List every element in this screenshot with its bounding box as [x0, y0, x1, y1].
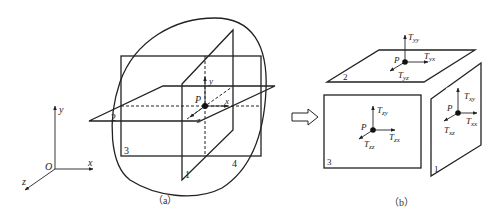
plane-label-2: 2: [111, 112, 116, 123]
point-p-right-label: P: [446, 103, 453, 113]
point-p-label: P: [194, 94, 201, 105]
z-axis: [25, 169, 55, 190]
local-z-label: z: [196, 115, 201, 125]
plane-label-3: 3: [124, 145, 129, 156]
face-top-label: 2: [343, 72, 348, 82]
t-yx-label: Tyx: [424, 51, 436, 63]
panel-a: O y x z P y x z 1 2 3 4 （a）: [21, 18, 275, 206]
point-p-front: [370, 127, 376, 133]
point-p: [202, 103, 208, 109]
global-axes: O y x z: [21, 104, 93, 190]
t-yz-label: Tyz: [398, 70, 409, 82]
point-p-front-label: P: [360, 122, 367, 132]
face-right-label: 1: [434, 164, 439, 174]
plane-label-1: 1: [185, 169, 190, 180]
point-p-top: [402, 59, 408, 65]
origin-label: O: [45, 161, 52, 172]
z-axis-label: z: [21, 176, 26, 187]
y-axis-label: y: [58, 104, 64, 115]
caption-a: （a）: [153, 195, 177, 206]
local-x-label: x: [224, 96, 229, 106]
panel-b: 2 P Tyy Tyx Tyz 3 P Tzy Tzx Tzz 1 P Txy …: [324, 32, 481, 208]
point-p-right: [455, 110, 461, 116]
implies-arrow: [292, 109, 318, 125]
plane-label-4: 4: [232, 158, 237, 169]
stress-tensor-figure: O y x z P y x z 1 2 3 4 （a）: [0, 0, 500, 219]
local-y-label: y: [208, 76, 213, 86]
point-p-top-label: P: [393, 55, 400, 65]
t-yy-label: Tyy: [408, 32, 420, 44]
caption-b: （b）: [389, 197, 414, 208]
face-front-label: 3: [327, 157, 332, 167]
x-axis-label: x: [87, 157, 93, 168]
